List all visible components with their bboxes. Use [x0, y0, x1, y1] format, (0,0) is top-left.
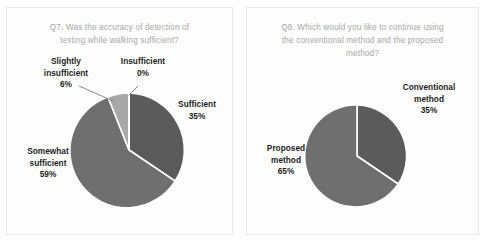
chart-panel-q8: Q8. Which would you like to continue usi…: [246, 7, 479, 235]
pie-chart-q8: Conventional method 35% Proposed method …: [247, 8, 480, 236]
pie-label-insufficient: Insufficient 0%: [106, 56, 180, 79]
figure-canvas: Q7. Was the accuracy of detection of tex…: [0, 0, 485, 243]
pie-label-conventional-method-line1: Conventional: [384, 82, 474, 94]
pie-label-slightly-insufficient: Slightly insufficient 6%: [31, 56, 101, 91]
pie-label-somewhat-sufficient-value: 59%: [12, 169, 84, 181]
chart-panel-q7: Q7. Was the accuracy of detection of tex…: [6, 7, 233, 235]
pie-label-insufficient-line1: Insufficient: [106, 56, 180, 68]
pie-label-sufficient: Sufficient 35%: [164, 99, 230, 122]
pie-label-slightly-insufficient-line2: insufficient: [31, 68, 101, 80]
pie-label-sufficient-line1: Sufficient: [164, 99, 230, 111]
pie-chart-q7: Slightly insufficient 6% Insufficient 0%…: [7, 8, 234, 236]
pie-label-conventional-method-value: 35%: [384, 105, 474, 117]
pie-label-slightly-insufficient-value: 6%: [31, 79, 101, 91]
pie-label-sufficient-value: 35%: [164, 111, 230, 123]
pie-label-proposed-method-value: 65%: [250, 166, 322, 178]
pie-label-slightly-insufficient-line1: Slightly: [31, 56, 101, 68]
pie-label-proposed-method-line2: method: [250, 155, 322, 167]
pie-label-somewhat-sufficient-line2: sufficient: [12, 158, 84, 170]
pie-label-somewhat-sufficient: Somewhat sufficient 59%: [12, 146, 84, 181]
pie-label-proposed-method: Proposed method 65%: [250, 143, 322, 178]
pie-label-proposed-method-line1: Proposed: [250, 143, 322, 155]
pie-svg-q8: [247, 8, 480, 236]
pie-label-conventional-method-line2: method: [384, 94, 474, 106]
pie-label-insufficient-value: 0%: [106, 68, 180, 80]
pie-label-somewhat-sufficient-line1: Somewhat: [12, 146, 84, 158]
pie-svg-q7: [7, 8, 234, 236]
pie-label-conventional-method: Conventional method 35%: [384, 82, 474, 117]
